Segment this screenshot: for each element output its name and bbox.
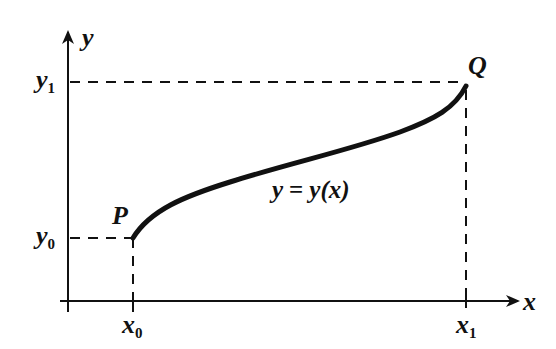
x0-label: x0 — [121, 310, 143, 341]
x-axis-label: x — [522, 287, 536, 316]
curve-equation: y=y(x) — [269, 176, 350, 204]
y0-label: y0 — [33, 221, 55, 252]
y-axis-label: y — [79, 23, 94, 52]
y1-label: y1 — [33, 65, 55, 96]
point-q-label: Q — [468, 51, 487, 80]
diagram-canvas: y x y1 y0 x0 x1 P Q y=y(x) — [0, 0, 556, 349]
point-p-label: P — [111, 201, 129, 230]
x1-label: x1 — [455, 310, 477, 341]
curve-y-of-x — [133, 86, 466, 238]
